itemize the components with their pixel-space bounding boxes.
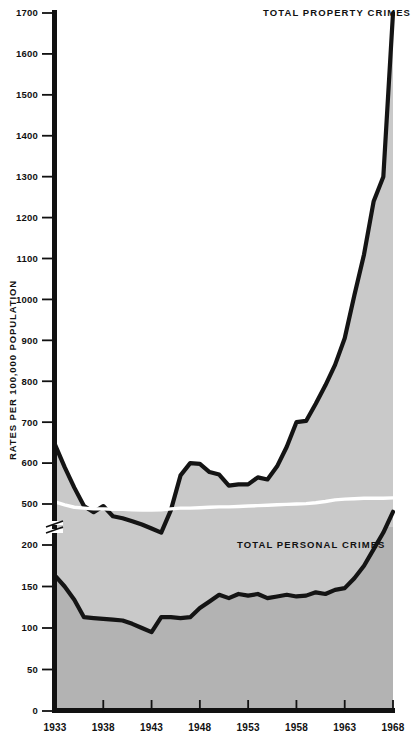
x-tick-label-1953: 1953 (237, 722, 260, 733)
y-axis-line (52, 10, 57, 712)
chart-canvas: 5006007008009001000110012001300140015001… (0, 0, 414, 740)
y-tick-label-50: 50 (27, 664, 38, 675)
x-tick-label-1968: 1968 (381, 722, 404, 733)
x-tick-label-1943: 1943 (140, 722, 163, 733)
y-tick-label-1500: 1500 (16, 89, 38, 100)
annotation-total-personal-crimes: TOTAL PERSONAL CRIMES (237, 539, 386, 550)
y-tick-label-0: 0 (33, 705, 38, 716)
x-tick-label-1938: 1938 (92, 722, 115, 733)
y-tick-label-500: 500 (22, 498, 38, 509)
y-tick-label-600: 600 (22, 457, 38, 468)
y-tick-label-1700: 1700 (16, 7, 38, 18)
y-tick-label-900: 900 (22, 335, 38, 346)
x-tick-label-1958: 1958 (285, 722, 308, 733)
y-tick-label-100: 100 (22, 622, 38, 633)
y-tick-label-1300: 1300 (16, 171, 38, 182)
y-axis-title: RATES PER 100,000 POPULATION (7, 280, 18, 460)
y-tick-label-1100: 1100 (17, 253, 38, 264)
y-tick-label-800: 800 (22, 376, 38, 387)
x-tick-label-1963: 1963 (333, 722, 356, 733)
y-tick-label-1200: 1200 (16, 212, 38, 223)
y-tick-label-1000: 1000 (16, 294, 38, 305)
y-tick-label-1600: 1600 (16, 48, 38, 59)
y-tick-label-1400: 1400 (16, 130, 38, 141)
crime-rate-chart: 5006007008009001000110012001300140015001… (0, 0, 414, 740)
y-tick-label-150: 150 (22, 581, 38, 592)
x-tick-label-1933: 1933 (43, 722, 66, 733)
x-tick-label-1948: 1948 (188, 722, 211, 733)
annotation-total-property-crimes: TOTAL PROPERTY CRIMES (263, 7, 411, 18)
y-tick-label-700: 700 (22, 417, 38, 428)
y-tick-label-200: 200 (22, 539, 38, 550)
